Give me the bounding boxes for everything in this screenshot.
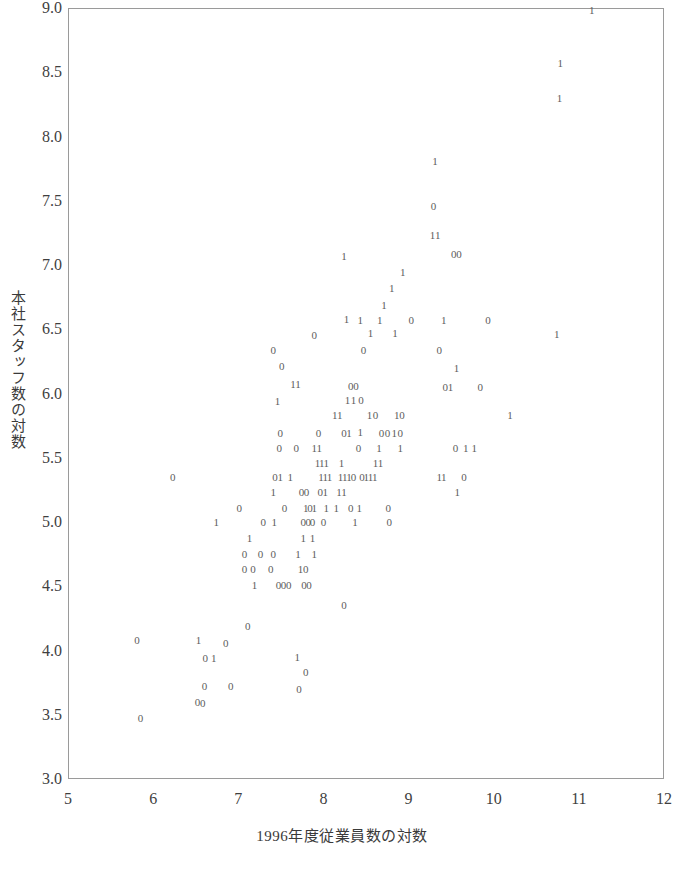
x-axis-tick-label: 5: [64, 790, 72, 808]
data-point-0: 0: [271, 344, 277, 355]
data-point-1: 1: [323, 502, 329, 513]
data-point-0: 0: [431, 200, 437, 211]
data-point-0: 0: [409, 314, 415, 325]
data-point-1: 1: [455, 487, 461, 498]
data-point-0: 0: [356, 443, 362, 454]
data-point-1: 1: [271, 516, 277, 527]
data-point-1: 1: [372, 471, 378, 482]
data-point-1: 1: [432, 155, 438, 166]
bottom-caption: [10, 862, 674, 872]
data-point-1: 1: [344, 313, 350, 324]
data-point-1: 1: [352, 516, 358, 527]
data-point-1: 1: [397, 443, 403, 454]
data-point-1: 1: [339, 457, 345, 468]
data-point-1: 1: [435, 230, 441, 241]
data-point-0: 0: [271, 548, 277, 559]
data-point-0: 0: [294, 443, 300, 454]
data-point-1: 1: [351, 394, 357, 405]
y-axis-tick-label: 3.0: [16, 771, 62, 787]
data-point-0: 0: [485, 314, 491, 325]
x-axis-tick-label: 10: [486, 790, 502, 808]
data-point-0: 0: [304, 487, 310, 498]
data-point-0: 0: [399, 410, 405, 421]
data-point-1: 1: [377, 314, 383, 325]
data-point-0: 0: [477, 381, 483, 392]
data-point-1: 1: [378, 457, 384, 468]
data-point-0: 0: [310, 516, 316, 527]
data-point-1: 1: [589, 5, 595, 16]
data-point-1: 1: [337, 410, 343, 421]
data-point-0: 0: [237, 502, 243, 513]
data-point-0: 0: [321, 516, 327, 527]
data-point-1: 1: [391, 428, 397, 439]
data-point-0: 0: [348, 502, 354, 513]
y-axis-tick-label: 7.0: [16, 257, 62, 273]
data-point-0: 0: [279, 361, 285, 372]
x-axis-tick-label: 9: [405, 790, 413, 808]
x-axis-tick-label: 12: [656, 790, 672, 808]
data-point-1: 1: [368, 327, 374, 338]
data-point-0: 0: [296, 683, 302, 694]
data-point-0: 0: [258, 548, 264, 559]
data-point-0: 0: [242, 548, 248, 559]
data-point-0: 0: [170, 471, 176, 482]
data-point-0: 0: [311, 330, 317, 341]
data-point-1: 1: [247, 533, 253, 544]
data-point-0: 0: [134, 634, 140, 645]
data-point-1: 1: [277, 471, 283, 482]
data-point-1: 1: [334, 502, 340, 513]
data-point-1: 1: [196, 634, 202, 645]
data-point-1: 1: [295, 379, 301, 390]
data-point-1: 1: [310, 533, 316, 544]
data-point-0: 0: [223, 637, 229, 648]
data-point-1: 1: [441, 471, 447, 482]
data-point-1: 1: [311, 502, 317, 513]
y-axis-tick-label: 8.5: [16, 64, 62, 80]
data-point-1: 1: [441, 314, 447, 325]
y-axis-tick-label: 5.0: [16, 514, 62, 530]
data-point-1: 1: [472, 443, 478, 454]
y-axis-tick-label: 7.5: [16, 193, 62, 209]
data-point-1: 1: [454, 362, 460, 373]
data-point-1: 1: [288, 471, 294, 482]
data-point-1: 1: [345, 394, 351, 405]
data-point-1: 1: [367, 410, 373, 421]
data-point-1: 1: [554, 329, 560, 340]
data-point-0: 0: [386, 516, 392, 527]
data-point-1: 1: [300, 533, 306, 544]
data-point-0: 0: [200, 697, 206, 708]
data-point-1: 1: [357, 502, 363, 513]
data-point-0: 0: [242, 564, 248, 575]
data-point-0: 0: [277, 428, 283, 439]
data-point-1: 1: [211, 652, 217, 663]
plot-data-area: 1111011100111111010101100001110001011101…: [69, 9, 663, 778]
data-point-1: 1: [381, 299, 387, 310]
data-point-1: 1: [271, 487, 277, 498]
data-point-1: 1: [323, 487, 329, 498]
data-point-1: 1: [323, 457, 329, 468]
data-point-0: 0: [351, 471, 357, 482]
data-point-0: 0: [202, 681, 208, 692]
data-point-0: 0: [397, 428, 403, 439]
data-point-1: 1: [341, 487, 347, 498]
y-axis-tick-label: 4.0: [16, 643, 62, 659]
data-point-0: 0: [277, 443, 283, 454]
data-point-0: 0: [456, 249, 462, 260]
data-point-1: 1: [295, 548, 301, 559]
data-point-1: 1: [463, 443, 469, 454]
data-point-0: 0: [260, 516, 266, 527]
data-point-1: 1: [376, 443, 382, 454]
data-point-0: 0: [286, 579, 292, 590]
y-axis-tick-label: 9.0: [16, 0, 62, 16]
data-point-0: 0: [461, 471, 467, 482]
data-point-0: 0: [361, 344, 367, 355]
data-point-0: 0: [202, 652, 208, 663]
data-point-1: 1: [294, 651, 300, 662]
x-axis-tick-label: 11: [571, 790, 586, 808]
data-point-0: 0: [303, 667, 309, 678]
data-point-1: 1: [507, 410, 513, 421]
data-point-0: 0: [373, 410, 379, 421]
data-point-0: 0: [379, 428, 385, 439]
data-point-1: 1: [341, 250, 347, 261]
y-axis-tick-label: 5.5: [16, 450, 62, 466]
